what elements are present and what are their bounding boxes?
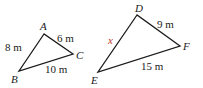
vertex-label-a: A bbox=[39, 20, 47, 32]
side-label-ab: 8 m bbox=[5, 41, 22, 53]
side-label-ac: 6 m bbox=[57, 32, 74, 44]
vertex-label-b: B bbox=[11, 73, 18, 85]
side-label-bc: 10 m bbox=[45, 63, 68, 75]
side-label-de-unknown: x bbox=[107, 34, 113, 46]
vertex-label-d: D bbox=[134, 2, 143, 14]
side-label-df: 9 m bbox=[157, 18, 174, 30]
triangle-def: D E F x 9 m 15 m bbox=[90, 2, 190, 86]
side-label-ef: 15 m bbox=[141, 60, 164, 72]
similar-triangles-figure: A B C 8 m 6 m 10 m D E F x 9 m 15 m bbox=[0, 0, 203, 88]
vertex-label-c: C bbox=[76, 49, 84, 61]
vertex-label-f: F bbox=[182, 40, 190, 52]
triangle-abc: A B C 8 m 6 m 10 m bbox=[5, 20, 84, 85]
vertex-label-e: E bbox=[90, 74, 98, 86]
